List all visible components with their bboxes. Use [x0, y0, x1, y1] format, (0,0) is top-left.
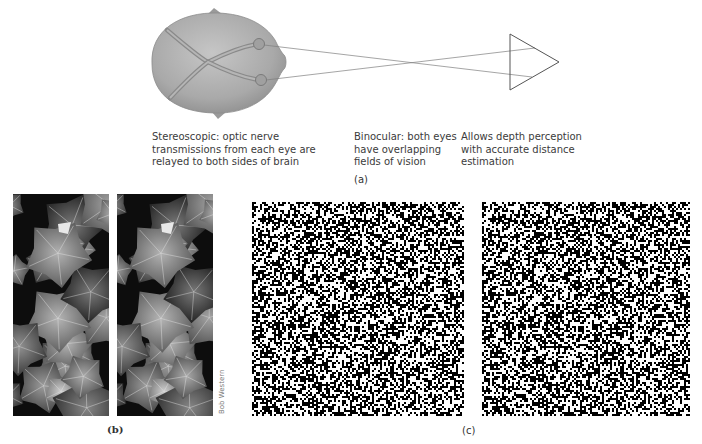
caption-line: transmissions from each eye are	[152, 144, 316, 157]
caption-line: Binocular: both eyes	[354, 131, 457, 144]
caption-line: Stereoscopic: optic nerve	[152, 131, 316, 144]
caption-line: estimation	[461, 156, 582, 169]
caption-line: have overlapping	[354, 144, 457, 157]
panel-label-b: (b)	[107, 424, 123, 435]
head-top-view-icon	[152, 8, 286, 119]
random-dot-pattern-left	[252, 202, 464, 416]
leaf-photo-right	[117, 194, 213, 416]
panel-label-c: (c)	[462, 425, 475, 436]
left-eye-icon	[254, 39, 265, 50]
sight-lines	[264, 45, 535, 80]
leaf-photo-left	[13, 194, 109, 416]
right-eye-icon	[256, 75, 267, 86]
caption-line: Allows depth perception	[461, 131, 582, 144]
triangle-object-icon	[510, 34, 559, 90]
caption-binocular: Binocular: both eyes have overlapping fi…	[354, 131, 457, 169]
panel-label-a: (a)	[354, 174, 368, 185]
caption-line: with accurate distance	[461, 144, 582, 157]
photo-credit: Bob Western	[218, 370, 226, 414]
binocular-vision-diagram	[0, 0, 702, 130]
random-dot-pattern-right	[482, 202, 690, 416]
caption-depth-perception: Allows depth perception with accurate di…	[461, 131, 582, 169]
caption-line: fields of vision	[354, 156, 457, 169]
caption-stereoscopic: Stereoscopic: optic nerve transmissions …	[152, 131, 316, 169]
caption-line: relayed to both sides of brain	[152, 156, 316, 169]
